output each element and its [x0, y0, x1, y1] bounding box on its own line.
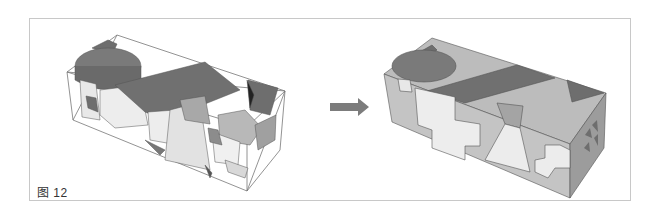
right-solid-box	[384, 38, 606, 198]
figure-caption: 图 12	[37, 183, 68, 200]
right-arrow-icon	[330, 98, 369, 116]
left-solids	[75, 40, 278, 178]
figure-illustration	[0, 0, 652, 213]
